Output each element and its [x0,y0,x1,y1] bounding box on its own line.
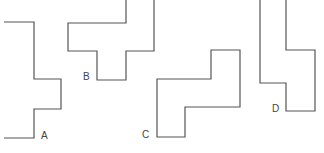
shape-d-outline [260,0,315,111]
shape-a-outline [4,22,61,138]
shape-a: A [4,22,61,141]
shape-a-label: A [41,130,48,141]
shape-c: C [142,50,240,140]
shapes-diagram: A B C D [0,0,324,153]
shape-c-outline [157,50,240,137]
shape-b: B [68,0,154,82]
shape-b-outline [68,0,154,80]
shape-d-label: D [272,103,279,114]
shape-b-label: B [83,71,90,82]
shape-c-label: C [142,129,149,140]
shape-d: D [260,0,315,114]
